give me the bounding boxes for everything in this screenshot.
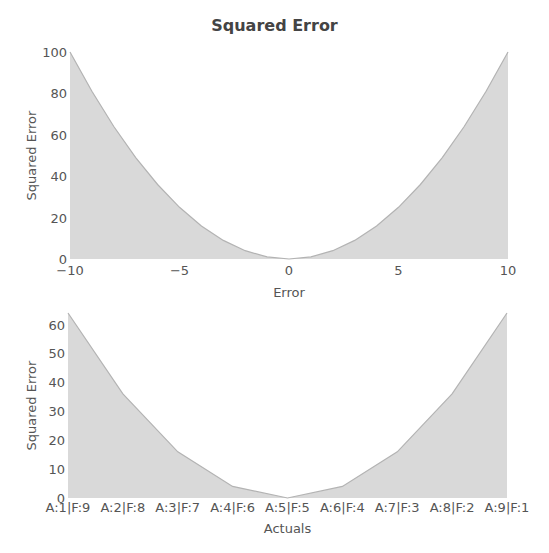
y-tick-label: 60	[48, 318, 65, 333]
y-tick-label: 80	[50, 86, 67, 101]
x-tick-label: A:3|F:7	[155, 500, 200, 515]
x-tick-label: A:7|F:3	[375, 500, 420, 515]
y-tick-label: 50	[48, 346, 65, 361]
x-tick-label: A:8|F:2	[430, 500, 475, 515]
x-axis-label: Error	[273, 285, 305, 300]
x-tick-label: −10	[56, 263, 83, 278]
x-tick-label: 10	[500, 263, 517, 278]
x-tick-label: A:5|F:5	[265, 500, 310, 515]
x-tick-label: A:1|F:9	[46, 500, 91, 515]
x-tick-label: A:4|F:6	[210, 500, 255, 515]
squared-error-curve-fill	[70, 52, 508, 259]
y-tick-label: 20	[48, 433, 65, 448]
y-tick-label: 20	[50, 211, 67, 226]
y-axis-label: Squared Error	[24, 360, 39, 450]
y-axis-label: Squared Error	[24, 110, 39, 200]
top-area-chart: 020406080100−10−50510ErrorSquared Error0…	[0, 0, 549, 553]
y-tick-label: 60	[50, 128, 67, 143]
y-tick-label: 40	[50, 169, 67, 184]
x-tick-label: −5	[170, 263, 189, 278]
x-tick-label: 0	[285, 263, 293, 278]
y-tick-label: 30	[48, 404, 65, 419]
y-tick-label: 40	[48, 375, 65, 390]
x-tick-label: 5	[394, 263, 402, 278]
x-axis-label: Actuals	[264, 521, 312, 536]
x-tick-label: A:2|F:8	[100, 500, 145, 515]
y-tick-label: 100	[42, 45, 67, 60]
x-tick-label: A:6|F:4	[320, 500, 365, 515]
x-tick-label: A:9|F:1	[485, 500, 530, 515]
y-tick-label: 10	[48, 462, 65, 477]
